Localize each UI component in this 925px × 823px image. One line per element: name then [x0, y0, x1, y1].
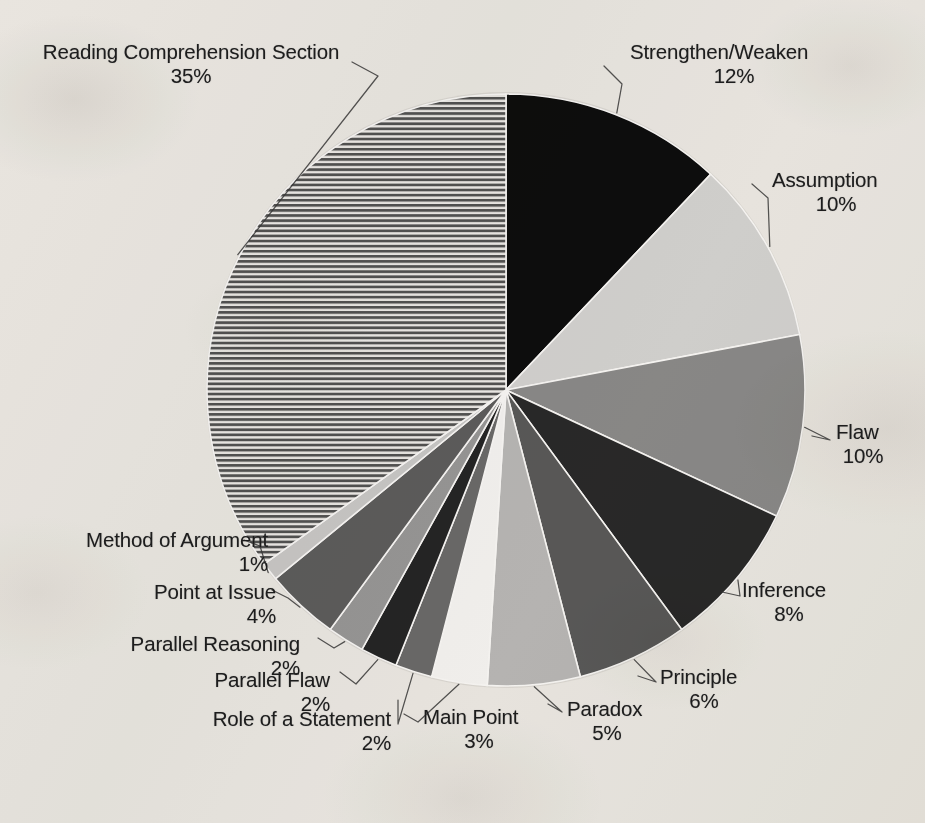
- pie-chart-page: Reading Comprehension Section 35% Streng…: [0, 0, 925, 823]
- slice-label-assumption: Assumption 10%: [772, 168, 922, 216]
- slice-label-text: Assumption: [772, 168, 878, 191]
- slice-label-principle: Principle 6%: [660, 665, 780, 713]
- leader-line: [805, 427, 830, 440]
- slice-label-percent: 10%: [836, 444, 890, 468]
- slice-label-parallel-reasoning: Parallel Reasoning 2%: [72, 632, 300, 680]
- slice-label-text: Inference: [742, 578, 826, 601]
- slice-label-text: Point at Issue: [154, 580, 276, 603]
- slice-label-percent: 4%: [58, 604, 276, 628]
- leader-line: [398, 673, 413, 724]
- slice-label-text: Principle: [660, 665, 737, 688]
- slice-label-text: Reading Comprehension Section: [43, 40, 340, 63]
- leader-line: [340, 660, 378, 684]
- leader-line: [318, 638, 345, 648]
- slice-label-percent: 5%: [567, 721, 647, 745]
- slice-label-percent: 2%: [72, 656, 300, 680]
- leader-line: [604, 66, 622, 113]
- slice-label-percent: 12%: [630, 64, 838, 88]
- slice-label-percent: 35%: [26, 64, 356, 88]
- pie-slices-group: [207, 94, 805, 686]
- slice-label-paradox: Paradox 5%: [567, 697, 677, 745]
- slice-label-percent: 3%: [423, 729, 535, 753]
- slice-label-strengthen-weaken: Strengthen/Weaken 12%: [630, 40, 900, 88]
- slice-label-method-of-argument: Method of Argument 1%: [16, 528, 268, 576]
- slice-label-percent: 2%: [143, 731, 391, 755]
- slice-label-percent: 1%: [16, 552, 268, 576]
- slice-label-percent: 8%: [742, 602, 836, 626]
- slice-label-percent: 10%: [772, 192, 900, 216]
- leader-line: [634, 660, 656, 682]
- slice-label-percent: 2%: [112, 692, 330, 716]
- slice-label-reading-comprehension-section: Reading Comprehension Section 35%: [26, 40, 356, 88]
- slice-label-text: Method of Argument: [86, 528, 268, 551]
- slice-label-text: Main Point: [423, 705, 518, 728]
- slice-label-text: Paradox: [567, 697, 642, 720]
- slice-label-flaw: Flaw 10%: [836, 420, 925, 468]
- slice-label-point-at-issue: Point at Issue 4%: [58, 580, 276, 628]
- slice-label-text: Strengthen/Weaken: [630, 40, 808, 63]
- slice-label-text: Parallel Reasoning: [131, 632, 300, 655]
- slice-label-inference: Inference 8%: [742, 578, 872, 626]
- slice-label-text: Flaw: [836, 420, 879, 443]
- slice-label-main-point: Main Point 3%: [423, 705, 563, 753]
